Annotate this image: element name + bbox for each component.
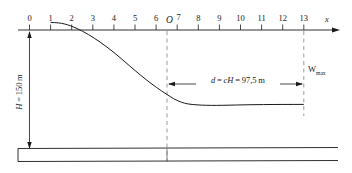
height-arrowhead-bottom	[27, 142, 31, 149]
tick-label-2: 2	[70, 13, 74, 23]
tick-label-9: 9	[217, 13, 221, 23]
x-axis-arrowhead	[332, 27, 340, 32]
tick-label-4: 4	[112, 13, 117, 23]
tick-label-0: 0	[27, 13, 31, 23]
deflection-curve	[51, 23, 304, 106]
tick-label-10: 10	[236, 13, 245, 23]
x-axis-label: x	[324, 14, 329, 24]
height-arrowhead-top	[27, 31, 31, 38]
figure-canvas: 0 1 2 3 4 5 6 7 8 9 10 11 12 13 O x H = …	[0, 0, 352, 173]
tick-label-13: 13	[300, 13, 309, 23]
tick-label-5: 5	[133, 13, 137, 23]
tick-label-8: 8	[196, 13, 200, 23]
base-bottom-line	[18, 161, 338, 162]
base-top-line	[18, 148, 338, 149]
tick-label-7: 7	[176, 12, 180, 22]
origin-label: O	[166, 15, 173, 25]
deflection-diagram: 0 1 2 3 4 5 6 7 8 9 10 11 12 13 O x H = …	[0, 0, 352, 173]
d-arrowhead-right	[296, 82, 303, 86]
tick-label-12: 12	[278, 13, 287, 23]
tick-label-6: 6	[154, 13, 158, 23]
wmax-label: Wmax	[308, 64, 326, 76]
height-label: H = 150 m	[14, 74, 24, 111]
d-dimension-label: d = cH = 97,5 m	[211, 75, 265, 85]
tick-label-1: 1	[48, 13, 52, 23]
d-arrowhead-left	[168, 82, 175, 86]
axis-ticks	[30, 25, 304, 31]
tick-label-11: 11	[258, 13, 266, 23]
tick-label-3: 3	[91, 13, 95, 23]
